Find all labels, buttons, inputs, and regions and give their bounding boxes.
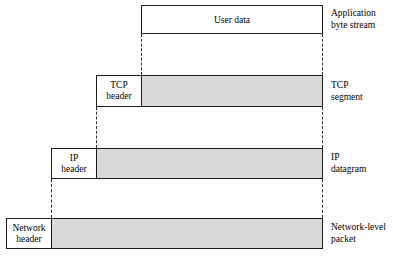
network-side-label-line2: packet — [331, 234, 386, 246]
network-packet-box: Network header — [6, 218, 323, 249]
dash-tcp-left — [96, 107, 97, 148]
network-header-label-line2: header — [16, 234, 41, 245]
ip-header-label-line2: header — [61, 164, 86, 175]
application-byte-stream-box: User data — [141, 5, 323, 34]
ip-side-label-line1: IP — [331, 152, 366, 164]
user-data-payload: User data — [142, 6, 322, 33]
network-side-label: Network-level packet — [331, 222, 386, 245]
ip-side-label: IP datagram — [331, 152, 366, 175]
network-header-label-line1: Network — [12, 223, 45, 234]
application-side-label-line2: byte stream — [331, 20, 376, 32]
dash-app-right — [322, 34, 323, 75]
application-side-label: Application byte stream — [331, 8, 376, 31]
tcp-segment-box: TCP header — [96, 75, 323, 107]
application-side-label-line1: Application — [331, 8, 376, 20]
network-payload — [52, 219, 322, 248]
dash-ip-left — [51, 179, 52, 218]
tcp-payload — [142, 76, 322, 106]
ip-payload — [97, 149, 322, 178]
dash-tcp-right — [322, 107, 323, 148]
ip-datagram-box: IP header — [51, 148, 323, 179]
tcp-side-label: TCP segment — [331, 80, 363, 103]
tcp-side-label-line1: TCP — [331, 80, 363, 92]
tcp-header-label-line1: TCP — [110, 80, 127, 91]
dash-ip-right — [322, 179, 323, 218]
ip-side-label-line2: datagram — [331, 164, 366, 176]
dash-app-left — [141, 34, 142, 75]
network-header-cell: Network header — [7, 219, 52, 248]
tcp-header-label-line2: header — [106, 91, 131, 102]
tcp-header-cell: TCP header — [97, 76, 142, 106]
tcp-side-label-line2: segment — [331, 92, 363, 104]
encapsulation-diagram: User data Application byte stream TCP he… — [0, 0, 393, 257]
user-data-label: User data — [214, 15, 250, 25]
ip-header-cell: IP header — [52, 149, 97, 178]
network-side-label-line1: Network-level — [331, 222, 386, 234]
ip-header-label-line1: IP — [70, 153, 78, 164]
